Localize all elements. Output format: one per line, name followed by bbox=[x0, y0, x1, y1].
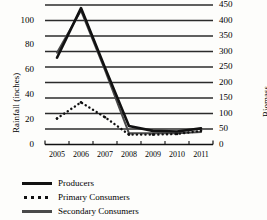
chart-container: Rainfall (inches) Biomass 020406080100 0… bbox=[0, 0, 267, 220]
legend-item-secondary-consumers: Secondary Consumers bbox=[22, 204, 222, 218]
chart-legend: ProducersPrimary ConsumersSecondary Cons… bbox=[22, 176, 222, 218]
legend-swatch-icon bbox=[22, 178, 52, 188]
legend-item-primary-consumers: Primary Consumers bbox=[22, 190, 222, 204]
legend-label: Primary Consumers bbox=[58, 192, 130, 202]
legend-item-producers: Producers bbox=[22, 176, 222, 190]
series-secondary-consumers bbox=[57, 11, 201, 134]
legend-swatch-icon bbox=[22, 192, 52, 202]
legend-swatch-icon bbox=[22, 206, 52, 216]
legend-label: Producers bbox=[58, 178, 94, 188]
axis-lines bbox=[45, 141, 213, 145]
gridlines bbox=[45, 5, 213, 129]
legend-label: Secondary Consumers bbox=[58, 206, 139, 216]
